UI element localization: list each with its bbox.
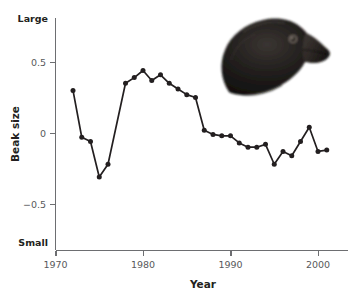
data-point [289,153,294,158]
data-point [324,148,329,153]
data-point [158,72,163,77]
data-point [106,162,111,167]
x-axis-tick-label: 2000 [306,259,330,270]
y-axis-title: Beak size [9,106,21,162]
y-axis-small-label: Small [18,237,48,248]
data-point [281,149,286,154]
data-point [71,88,76,93]
data-point [228,133,233,138]
data-point [263,142,268,147]
beak-size-points [71,68,330,180]
beak-size-figure: Large Small Beak size Year 0.50−0.519701… [0,0,354,297]
data-point [167,81,172,86]
y-axis-ticks [50,63,56,205]
data-point [316,149,321,154]
data-point [88,139,93,144]
x-axis-tick-label: 1970 [43,259,67,270]
beak-size-line [73,71,327,178]
data-point [298,139,303,144]
x-axis-tick-label: 1980 [131,259,155,270]
data-point [176,86,181,91]
data-point [97,175,102,180]
y-axis-large-label: Large [18,13,48,24]
data-point [184,92,189,97]
data-point [272,162,277,167]
data-point [307,125,312,130]
x-axis-tick-label: 1990 [218,259,242,270]
data-point [149,78,154,83]
beak-size-chart: Large Small Beak size Year 0.50−0.519701… [0,0,354,297]
y-axis-tick-label: 0.5 [31,57,46,68]
x-axis-title: Year [189,278,217,290]
y-axis-tick-label: 0 [40,128,46,139]
beak-size-series [71,68,330,180]
data-point [254,145,259,150]
data-point [79,135,84,140]
data-point [237,140,242,145]
data-point [211,132,216,137]
data-point [246,145,251,150]
data-point [123,81,128,86]
data-point [202,128,207,133]
data-point [132,75,137,80]
data-point [141,68,146,73]
data-point [193,95,198,100]
x-axis-ticks [56,251,319,257]
y-axis-tick-label: −0.5 [23,199,46,210]
data-point [219,133,224,138]
